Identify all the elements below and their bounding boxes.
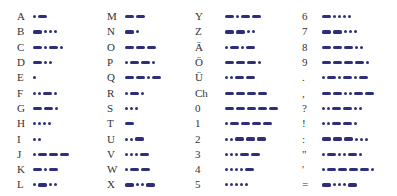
morse-entry: ?	[302, 101, 374, 116]
dot-icon	[125, 61, 128, 64]
dash-icon	[252, 15, 261, 18]
morse-code-symbols	[225, 46, 255, 49]
character-label: '	[302, 164, 322, 175]
dash-icon	[247, 92, 256, 95]
dash-icon	[348, 153, 357, 156]
dash-icon	[322, 92, 331, 95]
dash-icon	[33, 168, 42, 171]
dot-icon	[135, 107, 138, 110]
morse-entry: '	[302, 162, 374, 177]
character-label: Z	[195, 26, 225, 37]
character-label: Ö	[195, 57, 225, 68]
morse-entry: 0	[195, 101, 278, 116]
dot-icon	[322, 107, 325, 110]
dash-icon	[130, 61, 139, 64]
morse-code-symbols	[125, 46, 156, 49]
dot-icon	[48, 122, 51, 125]
morse-code-symbols	[225, 137, 266, 140]
character-label: A	[17, 11, 33, 22]
dash-icon	[247, 61, 256, 64]
character-label: :	[302, 134, 322, 145]
morse-code-symbols	[322, 183, 357, 186]
dot-icon	[130, 107, 133, 110]
dot-icon	[38, 92, 41, 95]
dot-icon	[333, 183, 336, 186]
morse-code-symbols	[33, 15, 47, 18]
dash-icon	[252, 122, 261, 125]
morse-code-symbols	[33, 107, 58, 110]
character-label: O	[107, 42, 125, 53]
morse-entry: :	[302, 131, 374, 146]
dot-icon	[354, 30, 357, 33]
dash-icon	[333, 92, 342, 95]
morse-entry: 8	[302, 40, 374, 55]
dash-icon	[152, 76, 161, 79]
dash-icon	[125, 183, 134, 186]
morse-entry: Z	[195, 24, 278, 39]
morse-entry: Ä	[195, 40, 278, 55]
morse-code-symbols	[225, 168, 254, 171]
morse-code-symbols	[322, 92, 374, 95]
dash-icon	[258, 92, 267, 95]
morse-entry: J	[17, 147, 69, 162]
morse-entry: L	[17, 177, 69, 192]
morse-entry: F	[17, 85, 69, 100]
character-label: K	[17, 164, 33, 175]
character-label: M	[107, 11, 125, 22]
character-label: E	[17, 72, 33, 83]
morse-entry: K	[17, 162, 69, 177]
dash-icon	[125, 76, 134, 79]
morse-code-symbols	[225, 122, 272, 125]
dot-icon	[344, 92, 347, 95]
morse-code-symbols	[322, 15, 351, 18]
morse-code-symbols	[225, 15, 261, 18]
character-label: Y	[195, 11, 225, 22]
dash-icon	[269, 107, 278, 110]
dash-icon	[322, 61, 331, 64]
dot-icon	[355, 46, 358, 49]
dot-icon	[38, 122, 41, 125]
dot-icon	[338, 183, 341, 186]
dot-icon	[152, 61, 155, 64]
morse-entry: Ü	[195, 70, 278, 85]
dot-icon	[343, 153, 346, 156]
character-label: 5	[195, 179, 225, 190]
dot-icon	[141, 92, 144, 95]
morse-column-2: MNOPQRSTUVWX	[107, 9, 161, 193]
dot-icon	[365, 138, 368, 141]
dot-icon	[125, 92, 128, 95]
dot-icon	[252, 30, 255, 33]
dot-icon	[33, 183, 36, 186]
character-label: R	[107, 88, 125, 99]
character-label: Q	[107, 72, 125, 83]
morse-code-symbols	[33, 30, 57, 33]
morse-entry: V	[107, 147, 161, 162]
dash-icon	[230, 46, 239, 49]
dash-icon	[344, 137, 353, 140]
dot-icon	[230, 183, 233, 186]
dot-icon	[359, 153, 362, 156]
dash-icon	[333, 46, 342, 49]
dash-icon	[147, 46, 156, 49]
character-label: =	[302, 179, 322, 190]
dot-icon	[338, 153, 341, 156]
dot-icon	[225, 76, 228, 79]
dash-icon	[359, 76, 368, 79]
dot-icon	[125, 107, 128, 110]
morse-code-symbols	[322, 61, 369, 64]
dot-icon	[322, 168, 325, 171]
dash-icon	[33, 30, 42, 33]
morse-entry: 2	[195, 131, 278, 146]
character-label: 7	[302, 26, 322, 37]
dash-icon	[225, 61, 234, 64]
character-label: T	[107, 118, 125, 129]
dot-icon	[125, 153, 128, 156]
dot-icon	[247, 30, 250, 33]
morse-code-symbols	[33, 92, 57, 95]
dash-icon	[38, 153, 47, 156]
morse-code-symbols	[33, 183, 57, 186]
morse-code-symbols	[125, 107, 138, 110]
dot-icon	[322, 122, 325, 125]
dash-icon	[322, 15, 331, 18]
dot-icon	[348, 15, 351, 18]
